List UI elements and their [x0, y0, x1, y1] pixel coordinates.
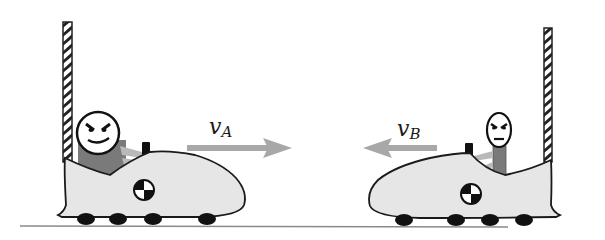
pole-b: [544, 28, 552, 162]
ground-line: [20, 226, 508, 227]
bumper-car-a: [58, 22, 292, 225]
center-of-mass-icon: [134, 180, 154, 200]
bumper-car-b: [363, 28, 560, 226]
bumper-car-diagram: [0, 0, 605, 240]
velocity-subscript-b: B: [409, 125, 420, 143]
velocity-subscript-a: A: [221, 123, 232, 141]
arrow-icon: [363, 138, 437, 158]
driver-b-head: [487, 113, 511, 147]
velocity-symbol-b: v: [397, 116, 409, 141]
velocity-label-a: vA: [209, 116, 232, 138]
velocity-label-b: vB: [397, 118, 420, 140]
velocity-symbol-a: v: [209, 114, 221, 139]
pole-a: [63, 22, 72, 162]
driver-a-head: [77, 112, 119, 154]
arrow-icon: [187, 138, 292, 158]
center-of-mass-icon: [461, 184, 481, 204]
